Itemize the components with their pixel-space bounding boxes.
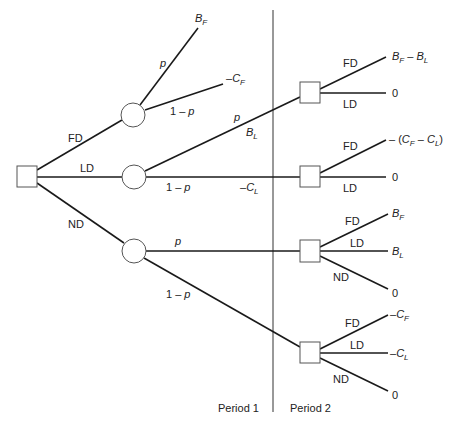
d3-fd-label: FD — [345, 215, 360, 227]
c2-prob-p: p — [233, 111, 240, 123]
c2-value-cl: –CL — [240, 181, 259, 196]
decision-node-p2-3 — [300, 240, 320, 262]
d2-fd-payoff: – (CF – CL) — [389, 133, 443, 148]
root-fd-label: FD — [68, 132, 83, 144]
period-2-label: Period 2 — [290, 402, 331, 414]
d2-ld-label: LD — [343, 182, 357, 194]
d4-nd-label: ND — [333, 373, 349, 385]
d3-nd-payoff: 0 — [392, 287, 398, 299]
root-ld-label: LD — [80, 162, 94, 174]
d3-ld-label: LD — [350, 237, 364, 249]
c1-payoff-cf: –CF — [226, 72, 246, 87]
edge-d4-nd — [320, 358, 388, 391]
d4-fd-payoff: –CF — [390, 308, 410, 323]
d1-ld-payoff: 0 — [392, 87, 398, 99]
d3-nd-label: ND — [333, 271, 349, 283]
decision-node-p2-4 — [300, 342, 320, 363]
c2-value-bl: BL — [246, 126, 258, 141]
edge-c1-p — [140, 28, 198, 105]
d4-ld-payoff: –CL — [390, 347, 409, 362]
chance-node-nd — [122, 239, 146, 263]
root-nd-label: ND — [68, 218, 84, 230]
period-1-label: Period 1 — [218, 402, 259, 414]
d2-ld-payoff: 0 — [392, 171, 398, 183]
decision-node-p2-2 — [300, 166, 320, 187]
decision-tree-diagram: FD LD ND p BF 1 – p –CF p BL 1 – p –CL p… — [0, 0, 452, 427]
c3-prob-p: p — [174, 235, 181, 247]
d1-fd-payoff: BF – BL — [392, 50, 428, 65]
c3-prob-1mp: 1 – p — [166, 288, 190, 300]
d1-fd-label: FD — [343, 57, 358, 69]
edge-d3-nd — [320, 256, 388, 289]
d3-fd-payoff: BF — [392, 207, 405, 222]
edge-c2-p — [145, 97, 300, 171]
root-decision-node — [17, 166, 37, 187]
d1-ld-label: LD — [343, 98, 357, 110]
c2-prob-1mp: 1 – p — [166, 181, 190, 193]
d3-ld-payoff: BL — [392, 245, 404, 260]
c1-prob-1mp: 1 – p — [170, 105, 194, 117]
edge-c3-1mp — [144, 258, 300, 347]
chance-node-ld — [122, 165, 146, 189]
d4-ld-label: LD — [350, 339, 364, 351]
c1-prob-p: p — [159, 57, 166, 69]
decision-node-p2-1 — [300, 82, 320, 103]
c1-payoff-bf: BF — [195, 12, 208, 27]
d2-fd-label: FD — [343, 140, 358, 152]
chance-node-fd — [121, 103, 145, 127]
d4-fd-label: FD — [345, 317, 360, 329]
edge-root-nd — [37, 183, 124, 243]
d4-nd-payoff: 0 — [392, 389, 398, 401]
